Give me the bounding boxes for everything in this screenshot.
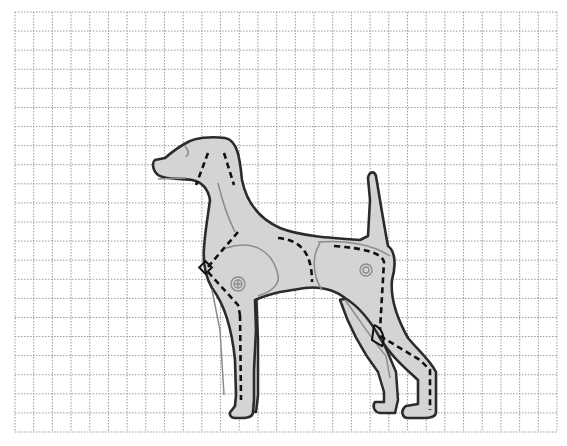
front-leg-axis — [240, 315, 241, 400]
dotted-grid — [15, 12, 557, 432]
dog-figure — [153, 137, 436, 418]
dog-diagram-canvas — [0, 0, 567, 446]
